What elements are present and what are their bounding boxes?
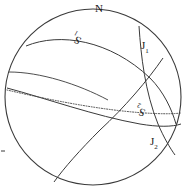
- stereonet-canvas: [0, 0, 187, 194]
- great-circle-label-j1: J1: [141, 40, 149, 54]
- great-circle-j2: [54, 58, 163, 182]
- great-circle-label-j2: J2: [150, 136, 158, 150]
- great-circle-s1-lower-limb: [9, 72, 108, 100]
- primitive-circle: [5, 9, 181, 185]
- cardinal-label-north: N: [95, 3, 103, 14]
- stereonet-figure: N S1 S2 J1 J2: [0, 0, 187, 194]
